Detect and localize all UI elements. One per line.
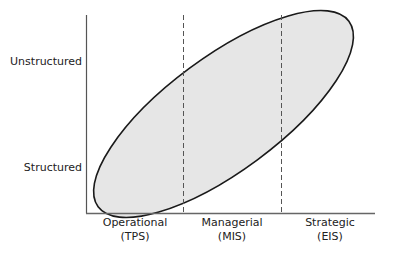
x-label-strategic: Strategic (EIS) (285, 216, 375, 244)
x-label-operational-title: Operational (90, 216, 180, 230)
x-label-managerial-title: Managerial (187, 216, 277, 230)
x-label-operational: Operational (TPS) (90, 216, 180, 244)
decision-ellipse (64, 0, 383, 253)
y-label-structured: Structured (24, 161, 82, 174)
x-label-operational-sub: (TPS) (90, 230, 180, 244)
x-label-managerial-sub: (MIS) (187, 230, 277, 244)
x-label-strategic-sub: (EIS) (285, 230, 375, 244)
x-label-strategic-title: Strategic (285, 216, 375, 230)
x-label-managerial: Managerial (MIS) (187, 216, 277, 244)
y-label-unstructured: Unstructured (10, 55, 82, 68)
